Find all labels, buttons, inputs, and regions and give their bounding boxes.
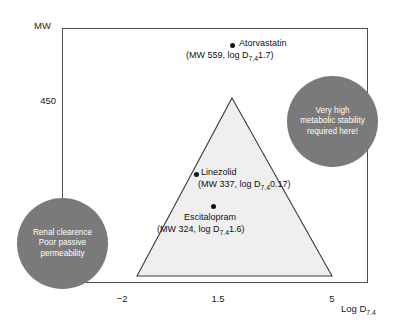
detail-subscript: 7.4 bbox=[261, 184, 270, 191]
detail-close: 0.17) bbox=[270, 179, 291, 189]
annotation-line: Poor passive bbox=[33, 238, 92, 249]
annotation-bubble-metabolic-stability: Very high metabolic stability required h… bbox=[287, 76, 378, 167]
datapoint-escitalopram-name: Escitalopram bbox=[184, 212, 236, 224]
detail-subscript: 7.4 bbox=[220, 229, 229, 236]
annotation-line: metabolic stability bbox=[300, 116, 365, 127]
datapoint-atorvastatin-name: Atorvastatin bbox=[239, 38, 287, 50]
detail-close: 1.7) bbox=[258, 50, 274, 60]
datapoint-linezolid-detail: (MW 337, log D7.40.17) bbox=[198, 179, 291, 192]
chart-figure: MW 450 200 −2 1.5 5 Log D7.4 Very high m… bbox=[0, 0, 403, 328]
annotation-bubble-metabolic-stability-text: Very high metabolic stability required h… bbox=[300, 106, 365, 138]
annotation-line: permeability bbox=[33, 249, 92, 260]
datapoint-linezolid-name: Linezolid bbox=[201, 167, 237, 179]
datapoint-marker-icon bbox=[211, 204, 216, 209]
datapoint-atorvastatin-detail: (MW 559, log D7.41.7) bbox=[186, 50, 274, 63]
detail-open: (MW 337, log D bbox=[198, 179, 261, 189]
annotation-bubble-renal-clearance-text: Renal clearence Poor passive permeabilit… bbox=[33, 228, 92, 260]
annotation-line: Renal clearence bbox=[33, 228, 92, 239]
datapoint-marker-icon bbox=[230, 43, 235, 48]
detail-open: (MW 559, log D bbox=[186, 50, 249, 60]
detail-close: 1.6) bbox=[229, 224, 245, 234]
detail-subscript: 7.4 bbox=[249, 55, 258, 62]
datapoint-marker-icon bbox=[194, 172, 199, 177]
datapoint-escitalopram-detail: (MW 324, log D7.41.6) bbox=[157, 224, 245, 237]
annotation-bubble-renal-clearance: Renal clearence Poor passive permeabilit… bbox=[17, 198, 108, 289]
annotation-line: Very high bbox=[300, 106, 365, 117]
detail-open: (MW 324, log D bbox=[157, 224, 220, 234]
annotation-line: required here! bbox=[300, 127, 365, 138]
